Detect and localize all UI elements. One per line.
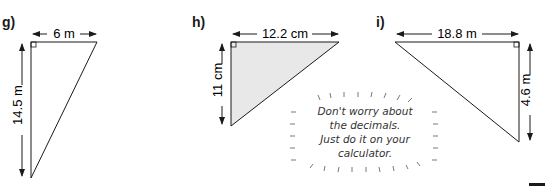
tip-line: Don't worry about — [297, 104, 433, 118]
h-base-dim: 12.2 cm — [262, 26, 308, 41]
h-height-dim: 11 cm — [210, 63, 225, 97]
i-height-dim: 4.6 m — [518, 74, 533, 107]
triangle-diagrams: 6 m 14.5 m 12.2 cm 11 cm 18.8 m 4.6 m — [0, 0, 545, 186]
tip-line: Just do it on your — [297, 132, 433, 146]
g-height-dim: 14.5 m — [10, 85, 25, 125]
triangle-g: 6 m 14.5 m — [10, 26, 97, 178]
calculator-tip: Don't worry about the decimals. Just do … — [297, 104, 433, 160]
i-base-dim: 18.8 m — [437, 26, 477, 41]
tip-line: the decimals. — [297, 118, 433, 132]
g-base-dim: 6 m — [53, 26, 75, 41]
tip-line: calculator. — [297, 146, 433, 160]
page-corner-bar — [529, 183, 545, 186]
